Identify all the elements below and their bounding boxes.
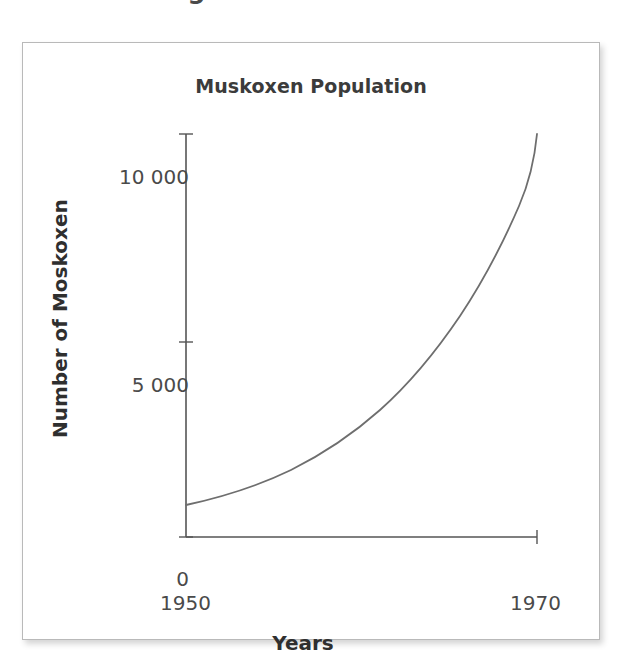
- plot-area: 10 000 5 000 0 1950 1970 Number of Mosko…: [23, 43, 601, 641]
- clipped-heading-strip: a straight line on this axis.: [0, 0, 626, 26]
- y-tick-label-10000: 10 000: [119, 165, 189, 189]
- x-tick-label-1970: 1970: [510, 591, 561, 615]
- population-curve: [186, 134, 537, 505]
- y-tick-label-0: 0: [176, 567, 189, 591]
- plot-svg: [23, 43, 601, 641]
- chart-panel: Muskoxen Population 10 000 5 000 0 1950 …: [22, 42, 600, 640]
- y-axis-title: Number of Moskoxen: [48, 208, 72, 438]
- x-tick-label-1950: 1950: [160, 591, 211, 615]
- clipped-heading-text: a straight line on this axis.: [96, 0, 480, 5]
- x-axis-title: Years: [23, 631, 583, 655]
- y-tick-label-5000: 5 000: [132, 373, 189, 397]
